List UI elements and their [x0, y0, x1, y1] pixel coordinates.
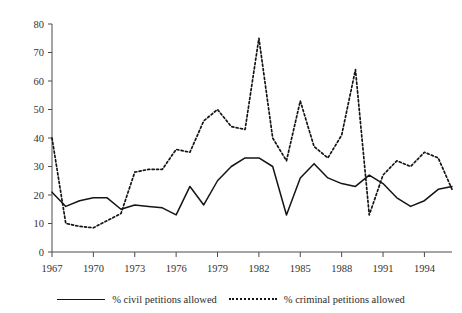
y-tick-label: 50	[34, 104, 45, 115]
y-tick-label: 40	[34, 133, 45, 144]
x-tick-label: 1994	[414, 263, 436, 274]
y-tick-label: 70	[34, 47, 45, 58]
legend-item-criminal: % criminal petitions allowed	[229, 294, 405, 305]
x-tick-label: 1970	[83, 263, 104, 274]
y-axis-tick-group: 01020304050607080	[34, 19, 53, 258]
line-chart-figure: 01020304050607080 1967197019731976197919…	[0, 0, 462, 313]
x-tick-label: 1982	[248, 263, 269, 274]
series-line-civil-petitions	[52, 158, 452, 215]
x-tick-label: 1991	[373, 263, 394, 274]
series-line-criminal-petitions	[52, 38, 452, 228]
legend-item-civil: % civil petitions allowed	[57, 294, 217, 305]
x-tick-label: 1976	[166, 263, 187, 274]
dotted-line-swatch-icon	[229, 298, 277, 300]
chart-plot-area: 01020304050607080 1967197019731976197919…	[0, 0, 462, 313]
solid-line-swatch-icon	[57, 299, 105, 300]
y-tick-label: 30	[34, 161, 45, 172]
y-tick-label: 10	[34, 218, 45, 229]
y-tick-label: 0	[39, 247, 44, 258]
x-tick-label: 1988	[331, 263, 352, 274]
x-tick-label: 1973	[124, 263, 145, 274]
legend-label-criminal: % criminal petitions allowed	[284, 294, 405, 305]
x-tick-label: 1967	[42, 263, 63, 274]
chart-legend: % civil petitions allowed % criminal pet…	[0, 288, 462, 310]
y-tick-label: 20	[34, 190, 45, 201]
legend-label-civil: % civil petitions allowed	[112, 294, 217, 305]
y-tick-label: 80	[34, 19, 45, 30]
x-tick-label: 1979	[207, 263, 228, 274]
x-tick-label: 1985	[290, 263, 311, 274]
x-axis-tick-group: 1967197019731976197919821985198819911994	[42, 252, 436, 274]
y-tick-label: 60	[34, 76, 45, 87]
